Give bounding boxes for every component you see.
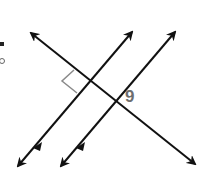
parallel-line-2	[61, 32, 175, 166]
geometry-diagram	[0, 0, 215, 180]
right-angle-mark	[62, 70, 77, 93]
angle-label: 9	[125, 88, 134, 105]
transversal-line	[31, 33, 195, 164]
